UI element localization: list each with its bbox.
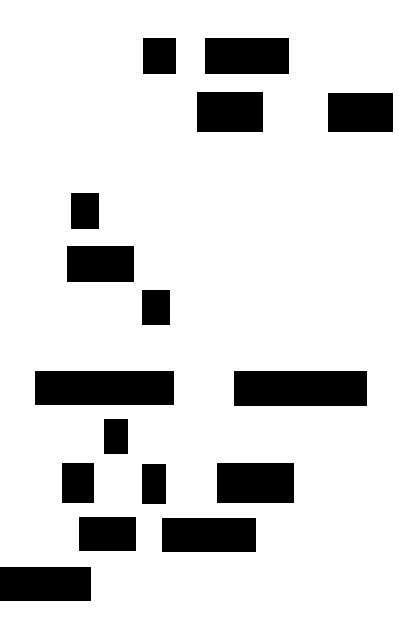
redaction-block <box>0 567 91 601</box>
redaction-block <box>104 419 128 454</box>
redaction-block <box>162 518 256 552</box>
redaction-block <box>205 38 289 74</box>
redaction-block <box>142 464 166 504</box>
redaction-block <box>234 371 367 406</box>
redaction-block <box>143 38 176 74</box>
redaction-block <box>71 193 99 229</box>
redaction-block <box>197 92 263 132</box>
redaction-block <box>35 371 174 405</box>
redaction-block <box>67 246 134 282</box>
redaction-block <box>79 517 136 551</box>
redaction-block <box>62 463 94 503</box>
redaction-block <box>142 290 170 325</box>
redaction-block <box>217 463 294 503</box>
redaction-block <box>328 93 393 132</box>
